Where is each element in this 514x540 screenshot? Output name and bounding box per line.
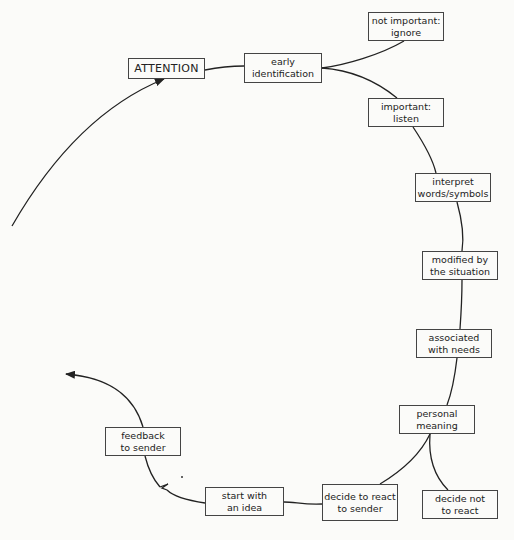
node-label-line: to react [442,505,479,517]
node-label-line: words/symbols [418,188,489,200]
node-label-line: listen [393,113,419,125]
node-label-line: with needs [428,344,480,356]
node-attention: ATTENTION [128,58,205,79]
node-label-line: decide not [435,493,485,505]
node-decide-to-react: decide to reactto sender [322,484,398,521]
node-label-line: decide to react [324,491,396,503]
node-label-line: to sender [337,503,382,515]
node-decide-not-to-react: decide notto react [422,490,498,519]
node-start-with-idea: start withan idea [205,487,284,516]
node-label-line: an idea [227,502,262,514]
node-label-line: ignore [391,27,421,39]
node-personal-meaning: personalmeaning [399,405,475,434]
node-label-line: meaning [416,420,458,432]
node-associated-with-needs: associatedwith needs [416,329,492,358]
node-label-line: identification [252,68,314,80]
node-label-line: to sender [120,442,165,454]
node-label-line: associated [429,332,480,344]
node-label-line: early [271,56,295,68]
node-label-line: personal [416,408,457,420]
node-feedback-to-sender: feedbackto sender [105,427,181,456]
node-label-line: feedback [121,430,165,442]
node-not-important-ignore: not important:ignore [368,12,444,41]
node-label-line: important: [381,101,431,113]
node-label-line: modified by [432,254,488,266]
dot-mark [181,476,183,478]
node-label-line: the situation [430,266,490,278]
node-important-listen: important:listen [368,98,444,127]
node-interpret-words-symbols: interpretwords/symbols [415,173,491,202]
arrow-into-attention [12,79,164,226]
arrow-out-of-feedback [66,374,143,427]
node-early-identification: earlyidentification [244,53,322,83]
node-label-line: not important: [372,15,441,27]
node-modified-by-situation: modified bythe situation [422,251,498,280]
node-label-line: interpret [432,176,473,188]
node-label-line: ATTENTION [134,63,199,75]
node-label-line: start with [222,490,267,502]
